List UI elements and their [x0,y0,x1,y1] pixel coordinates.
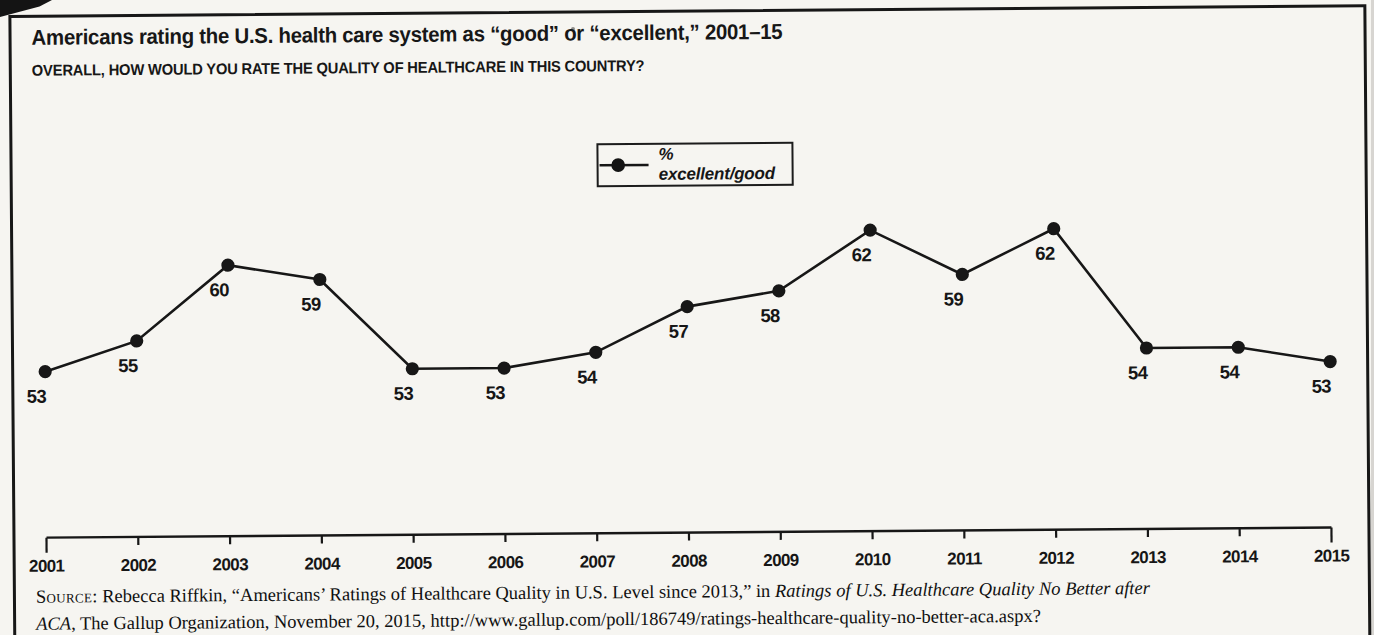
data-point-2009: 58 [760,284,786,326]
point-marker [221,259,234,272]
x-tick-label-2007: 2007 [580,552,616,571]
point-label: 53 [1312,376,1332,397]
point-marker [130,334,143,347]
x-tick-label-2015: 2015 [1314,546,1350,565]
point-label: 53 [394,383,414,404]
legend-line-marker-icon [599,157,650,173]
point-marker [864,224,877,237]
x-tick-label-2011: 2011 [947,549,982,568]
point-label: 58 [760,305,780,326]
source-text-2: , The Gallup Organization, November 20, … [71,606,1041,634]
point-marker [772,284,785,297]
x-tick-label-2004: 2004 [304,554,341,573]
source-label: Source: [36,586,98,606]
source-text-1: Rebecca Riffkin, “Americans’ Ratings of … [97,581,775,606]
data-point-2015: 53 [1311,355,1337,397]
x-tick-label-2012: 2012 [1039,549,1075,568]
x-tick-label-2006: 2006 [488,553,524,572]
point-label: 54 [1128,362,1149,383]
x-tick-label-2010: 2010 [855,550,891,569]
point-label: 55 [118,355,138,376]
chart-title: Americans rating the U.S. health care sy… [31,20,782,51]
x-tick-label-2005: 2005 [396,554,432,573]
point-marker [1140,341,1153,354]
point-label: 54 [1220,361,1241,382]
point-label: 62 [852,244,872,265]
data-point-2012: 62 [1035,222,1061,264]
point-marker [1232,341,1245,354]
point-label: 53 [27,386,47,407]
point-marker [39,365,52,378]
data-point-2010: 62 [851,224,877,266]
source-citation: Source: Rebecca Riffkin, “Americans’ Rat… [36,573,1342,635]
x-tick-label-2008: 2008 [671,551,707,570]
data-point-2001: 53 [26,365,52,407]
chart-figure: Americans rating the U.S. health care sy… [0,0,1374,635]
line-chart: 2001200220032004200520062007200820092010… [0,169,1374,590]
data-point-2007: 54 [577,346,603,388]
point-marker [681,300,694,313]
point-label: 59 [944,288,964,309]
x-tick-label-2003: 2003 [212,555,248,574]
data-point-2004: 59 [301,273,327,315]
point-marker [497,361,510,374]
point-label: 57 [669,321,689,342]
point-label: 59 [301,293,321,314]
data-point-2011: 59 [944,268,970,310]
point-marker [589,346,602,359]
point-label: 60 [209,279,229,300]
point-label: 62 [1035,243,1055,264]
x-tick-label-2001: 2001 [29,556,65,575]
data-point-2008: 57 [668,300,694,342]
point-label: 54 [577,366,598,387]
point-marker [1323,355,1336,368]
x-tick-label-2009: 2009 [763,551,799,570]
data-point-2005: 53 [394,362,420,404]
data-point-2002: 55 [118,334,144,376]
scanned-chart-page: { "ink": "#171717", "page_bg": "#f6f5f1"… [0,0,1374,635]
x-tick-label-2014: 2014 [1222,547,1259,566]
chart-subtitle: OVERALL, HOW WOULD YOU RATE THE QUALITY … [32,57,645,80]
data-point-2003: 60 [209,259,235,301]
source-work-title-part-1: Ratings of U.S. Healthcare Quality No Be… [775,578,1150,601]
x-tick-label-2002: 2002 [121,556,157,575]
point-label: 53 [486,382,506,403]
point-marker [1047,222,1060,235]
source-work-title-part-2: ACA [36,613,71,633]
series-line [44,227,1330,372]
data-point-2013: 54 [1128,341,1154,383]
x-tick-label-2013: 2013 [1130,548,1166,567]
point-marker [313,273,326,286]
point-marker [406,362,419,375]
point-marker [956,268,969,281]
